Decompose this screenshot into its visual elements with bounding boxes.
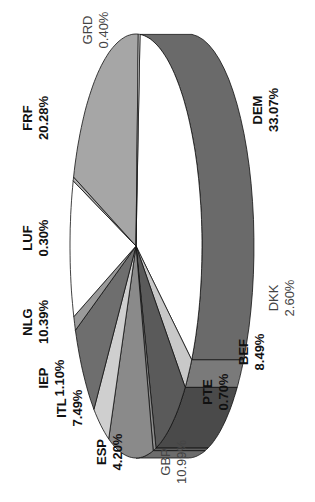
label-code: FRF xyxy=(20,105,35,130)
label-code: IEP xyxy=(36,367,51,388)
label-code: DEM xyxy=(250,96,265,125)
label-percent: 7.49% xyxy=(70,389,85,426)
label-dem: DEM33.07% xyxy=(250,88,281,133)
label-percent: 0.40% xyxy=(96,11,111,48)
label-percent: 0.70% xyxy=(216,373,231,410)
label-code: ESP xyxy=(94,439,109,465)
label-code: ITL xyxy=(54,398,69,418)
label-percent: 33.07% xyxy=(266,88,281,133)
label-code: DKK xyxy=(266,284,281,311)
label-frf: FRF20.28% xyxy=(20,96,51,141)
label-dkk: DKK2.60% xyxy=(266,279,297,316)
label-percent: 2.60% xyxy=(282,279,297,316)
label-percent: 8.49% xyxy=(252,333,267,370)
pie-chart: DEM33.07%DKK2.60%BEF8.49%PTE0.70%GBP10.9… xyxy=(0,0,315,502)
label-percent: 20.28% xyxy=(36,96,51,141)
label-percent: 4.20% xyxy=(110,433,125,470)
label-code: GRD xyxy=(80,16,95,45)
label-iep: IEP1.10% xyxy=(36,359,67,396)
label-luf: LUF0.30% xyxy=(20,219,51,256)
label-percent: 10.39% xyxy=(36,300,51,345)
label-code: BEF xyxy=(236,339,251,365)
label-code: GBP xyxy=(158,448,173,475)
label-percent: 1.10% xyxy=(52,359,67,396)
pie-top-faces xyxy=(70,34,202,458)
label-nlg: NLG10.39% xyxy=(20,300,51,345)
label-percent: 10.99% xyxy=(174,440,189,485)
label-esp: ESP4.20% xyxy=(94,433,125,470)
label-code: LUF xyxy=(20,225,35,250)
label-grd: GRD0.40% xyxy=(80,11,111,48)
label-percent: 0.30% xyxy=(36,219,51,256)
label-code: NLG xyxy=(20,308,35,335)
label-code: PTE xyxy=(200,379,215,405)
